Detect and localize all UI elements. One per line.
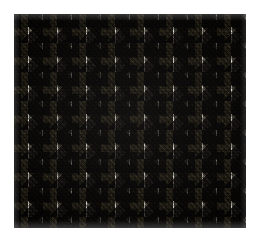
image-canvas	[0, 0, 260, 242]
photographic-blur-layer	[14, 14, 246, 228]
fabric-swatch	[14, 14, 246, 228]
